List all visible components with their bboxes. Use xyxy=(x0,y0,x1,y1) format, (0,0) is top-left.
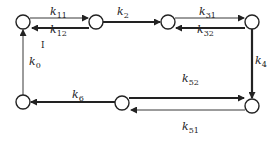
node-6 xyxy=(115,96,129,110)
node-3 xyxy=(161,15,175,29)
label-k12: k12 xyxy=(50,23,67,38)
annotation-I: I xyxy=(41,40,45,50)
label-k32: k32 xyxy=(197,23,214,38)
label-k51: k51 xyxy=(182,120,199,135)
node-7 xyxy=(16,95,30,109)
label-k6: k6 xyxy=(72,88,84,103)
label-k11: k11 xyxy=(50,5,67,20)
node-4 xyxy=(245,15,259,29)
label-k4: k4 xyxy=(255,54,267,69)
label-k0: k0 xyxy=(29,55,41,70)
reaction-network-diagram: k11 k12 k2 k31 k32 k4 k52 k51 k6 k0 I xyxy=(0,0,277,141)
label-k2: k2 xyxy=(117,5,129,20)
node-2 xyxy=(89,15,103,29)
label-k52: k52 xyxy=(182,72,199,87)
label-k31: k31 xyxy=(199,5,216,20)
node-1 xyxy=(16,15,30,29)
node-5 xyxy=(245,99,259,113)
